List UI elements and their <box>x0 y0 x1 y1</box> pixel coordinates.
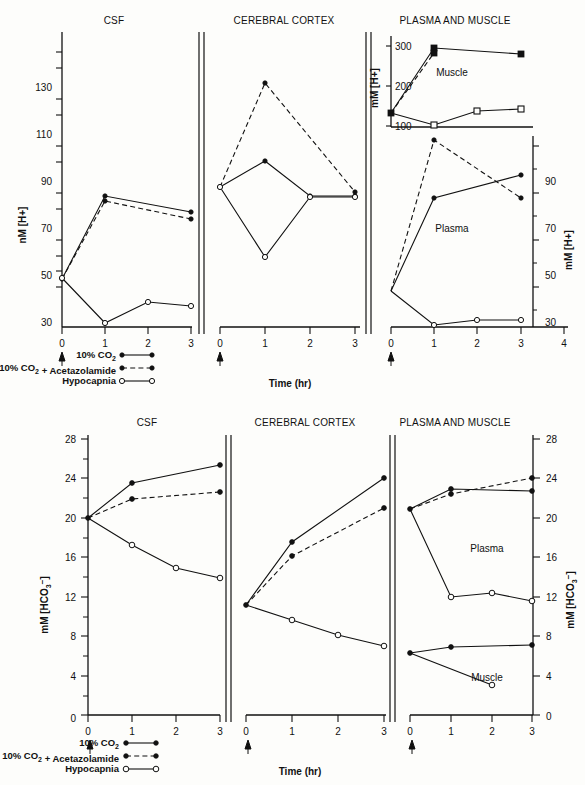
data-point <box>145 299 150 304</box>
ytick-4: 4 <box>546 671 552 682</box>
data-point <box>102 320 107 325</box>
ytick-16: 16 <box>546 552 558 563</box>
ytick-8: 8 <box>546 631 552 642</box>
x-axis-label: Time (hr) <box>279 766 322 777</box>
panel-title-cerebral-cortex: CEREBRAL CORTEX <box>234 15 335 26</box>
data-point <box>262 254 267 259</box>
data-point <box>448 594 454 600</box>
data-point <box>307 194 312 199</box>
xtick-0: 0 <box>59 338 65 349</box>
xtick-2: 2 <box>173 726 179 737</box>
x-axis-label: Time (hr) <box>269 378 312 389</box>
panel-cerebral-cortex-hco3: 0 1 2 3 <box>243 476 387 754</box>
xtick-1: 1 <box>129 726 135 737</box>
data-point <box>129 542 135 548</box>
y-axis-label-right: mM [H+] <box>563 230 574 270</box>
data-point <box>382 476 387 481</box>
ytick-12: 12 <box>65 592 77 603</box>
data-point <box>474 108 480 114</box>
series-hypocapnia-line-muscle <box>410 653 492 685</box>
axis-break-1 <box>226 435 231 722</box>
data-point <box>431 50 437 56</box>
data-point <box>529 598 535 604</box>
series-hypocapnia-line-plasma <box>410 509 532 601</box>
data-point <box>217 184 222 189</box>
legend-label-acetazolamide: 10% CO2 + Acetazolamide <box>0 362 116 376</box>
ytick-right-70: 70 <box>545 223 557 234</box>
ytick-70: 70 <box>41 223 53 234</box>
data-point <box>59 275 64 280</box>
data-point <box>518 106 524 112</box>
series-co2-line-plasma <box>410 489 532 509</box>
ytick-0: 0 <box>546 711 552 722</box>
xtick-2: 2 <box>145 338 151 349</box>
axis-break-2 <box>390 435 395 722</box>
series-acetazolamide-line-plasma <box>391 140 521 291</box>
panel-title-plasma-muscle: PLASMA AND MUSCLE <box>399 15 510 26</box>
xtick-1: 1 <box>289 726 295 737</box>
xtick-1: 1 <box>102 338 108 349</box>
figure-hydrogen-ion: CSF CEREBRAL CORTEX PLASMA AND MUSCLE 13… <box>0 0 585 400</box>
data-point <box>103 199 107 203</box>
legend-label-hypocapnia: Hypocapnia <box>65 763 120 774</box>
xtick-0: 0 <box>407 726 413 737</box>
panel-csf-hco3: 28 24 20 16 12 8 4 0 mM [HCO3−] 0 1 2 3 <box>38 434 223 754</box>
data-point <box>173 565 179 571</box>
data-point <box>530 643 535 648</box>
ytick-muscle-300: 300 <box>395 41 412 52</box>
series-acetazolamide-line <box>88 492 220 518</box>
data-point <box>290 554 295 559</box>
bottom-chart-svg: CSF CEREBRAL CORTEX PLASMA AND MUSCLE 28… <box>0 400 585 785</box>
series-hypocapnia-line <box>246 605 384 646</box>
legend-label-co2: 10% CO2 <box>76 349 116 362</box>
series-co2-line <box>220 161 355 196</box>
xtick-3: 3 <box>529 726 535 737</box>
data-point <box>381 643 387 649</box>
data-point <box>352 194 357 199</box>
xtick-1: 1 <box>262 338 268 349</box>
data-point <box>188 303 193 308</box>
series-label-muscle: Muscle <box>436 67 468 78</box>
panel-title-csf: CSF <box>137 417 158 428</box>
top-chart-svg: CSF CEREBRAL CORTEX PLASMA AND MUSCLE 13… <box>0 0 585 400</box>
xtick-1: 1 <box>431 338 437 349</box>
ytick-30: 30 <box>41 317 53 328</box>
xtick-3: 3 <box>352 338 358 349</box>
data-point <box>382 506 387 511</box>
panel-title-csf: CSF <box>104 15 125 26</box>
xtick-0: 0 <box>243 726 249 737</box>
series-acetazolamide-line <box>246 508 384 605</box>
data-point <box>353 190 357 194</box>
data-point <box>432 196 436 200</box>
data-point <box>530 489 535 494</box>
data-point <box>489 590 495 596</box>
data-point <box>518 317 523 322</box>
y-axis-label-right: mM [HCO3−] <box>564 571 578 628</box>
xtick-2: 2 <box>307 338 313 349</box>
xtick-1: 1 <box>448 726 454 737</box>
panel-title-cerebral-cortex: CEREBRAL CORTEX <box>255 417 356 428</box>
series-hypocapnia-line <box>220 187 355 257</box>
ytick-right-90: 90 <box>545 176 557 187</box>
xtick-3: 3 <box>188 338 194 349</box>
y-axis-label-left: nM [H+] <box>17 207 28 244</box>
ytick-50: 50 <box>41 270 53 281</box>
panel-title-plasma-muscle: PLASMA AND MUSCLE <box>399 417 510 428</box>
data-point <box>431 322 436 327</box>
series-hypocapnia-line-plasma <box>391 291 521 325</box>
data-point <box>189 210 193 214</box>
xtick-2: 2 <box>489 726 495 737</box>
ytick-20: 20 <box>546 513 558 524</box>
y-axis-label-muscle: mM [H+] <box>369 68 380 108</box>
data-point <box>289 617 295 623</box>
ytick-90: 90 <box>41 176 53 187</box>
ytick-0: 0 <box>70 713 76 724</box>
data-point <box>518 51 524 57</box>
series-acetazolamide-line-plasma <box>410 478 532 509</box>
ytick-20: 20 <box>65 513 77 524</box>
data-point <box>263 159 267 163</box>
xtick-3: 3 <box>217 726 223 737</box>
axis-break-1 <box>199 32 204 334</box>
data-point <box>218 463 223 468</box>
series-label-muscle: Muscle <box>471 672 503 683</box>
